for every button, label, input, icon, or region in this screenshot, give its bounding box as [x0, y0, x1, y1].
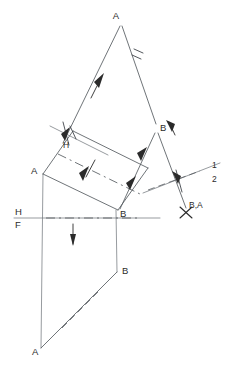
- frontal-view-group: [41, 272, 117, 348]
- construction-line-parallel: [58, 154, 140, 194]
- arrow-aux-left: [91, 73, 104, 98]
- arrow-head: [166, 120, 175, 132]
- label-b-auxiliary: B: [160, 122, 166, 133]
- label-fold-line-1: 1: [212, 160, 217, 170]
- auxiliary-view-group: [63, 26, 186, 209]
- fold-line-h1-group: [50, 126, 108, 155]
- line-parallelogram-top: [73, 131, 148, 168]
- line-a-to-fold-h1: [43, 131, 73, 174]
- label-fold-h: H: [15, 206, 22, 217]
- drawing-canvas: A B A B B A B,A H F H 1 2: [0, 0, 237, 370]
- projection-lines-group: [41, 174, 117, 348]
- arrow-aux-left-lower: [61, 127, 70, 141]
- line-ab-frontal: [41, 272, 117, 348]
- line-ab-frontal-dash: [62, 292, 98, 328]
- line-ab-true-length: [158, 133, 186, 208]
- label-point-view-ba: B,A: [189, 200, 203, 210]
- label-fold-f: F: [15, 219, 21, 230]
- label-fold-line-2: 2: [212, 174, 217, 184]
- arrow-shaft: [91, 86, 97, 98]
- descriptive-geometry-drawing: A B A B B A B,A H F H 1 2: [0, 0, 237, 370]
- arrow-head: [94, 73, 104, 88]
- line-b-aux-to-b-horizontal: [120, 133, 155, 209]
- arrow-head: [70, 234, 76, 246]
- horizontal-view-group: [43, 131, 148, 210]
- label-a-horizontal: A: [31, 165, 38, 176]
- fold-line-h1: [50, 126, 108, 155]
- tick-mark-ii-a: [134, 49, 143, 53]
- arrow-beside-b-up: [166, 120, 175, 135]
- label-b-frontal: B: [122, 265, 128, 276]
- label-a-auxiliary: A: [113, 10, 120, 21]
- projector-a-vertical: [41, 174, 43, 348]
- arrow-head: [61, 127, 70, 141]
- line-ab-horizontal: [43, 174, 118, 210]
- label-fold-aux-h: H: [63, 140, 69, 150]
- tick-double-upper-right: [132, 49, 143, 59]
- line-a-auxiliary-left: [63, 26, 120, 143]
- projector-b-vertical: [116, 210, 117, 272]
- arrow-hf-down: [70, 224, 76, 246]
- label-a-frontal: A: [32, 346, 39, 357]
- label-b-horizontal: B: [120, 208, 126, 219]
- line-a-auxiliary-right: [122, 26, 156, 124]
